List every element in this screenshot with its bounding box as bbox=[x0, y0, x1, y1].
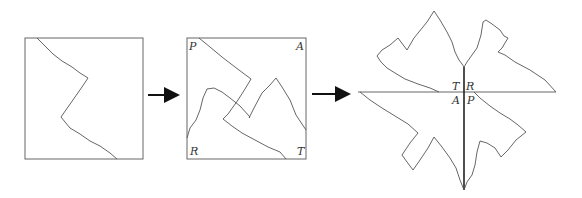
shape-lower-left bbox=[360, 92, 464, 190]
corner-label-r: R bbox=[189, 145, 198, 158]
diagram-canvas: P A R T T R A P bbox=[0, 0, 582, 198]
shape-upper-left bbox=[377, 11, 464, 92]
center-label-r: R bbox=[465, 80, 474, 93]
stage-2-square: P A R T bbox=[187, 38, 306, 159]
stage-1-square bbox=[25, 38, 143, 159]
shape-upper-right bbox=[464, 20, 556, 92]
center-label-t: T bbox=[452, 80, 461, 93]
center-label-a: A bbox=[451, 94, 460, 107]
corner-label-a: A bbox=[295, 40, 304, 53]
cut-line bbox=[37, 38, 117, 159]
cut-line-c bbox=[249, 78, 306, 130]
corner-label-p: P bbox=[188, 40, 197, 53]
center-label-p: P bbox=[466, 94, 475, 107]
corner-label-t: T bbox=[297, 145, 306, 158]
cut-line-a bbox=[199, 38, 286, 159]
stage-3-unfolded: T R A P bbox=[358, 11, 556, 190]
